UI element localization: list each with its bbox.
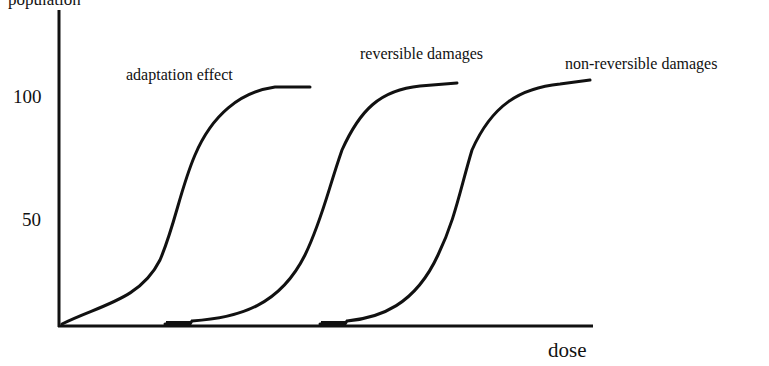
y-axis-label-truncated: population xyxy=(8,0,81,10)
label-reversible-damages: reversible damages xyxy=(360,45,483,63)
curve-reversible-flat-mark xyxy=(166,321,190,326)
y-tick-100: 100 xyxy=(13,86,42,108)
label-non-reversible-damages: non-reversible damages xyxy=(565,55,717,73)
label-adaptation-effect: adaptation effect xyxy=(126,66,233,84)
curve-non-reversible-flat-mark xyxy=(321,321,345,326)
y-tick-50: 50 xyxy=(22,209,41,231)
curve-reversible-damages xyxy=(165,83,457,324)
curve-adaptation-effect xyxy=(62,87,310,324)
x-axis-label: dose xyxy=(548,338,587,363)
